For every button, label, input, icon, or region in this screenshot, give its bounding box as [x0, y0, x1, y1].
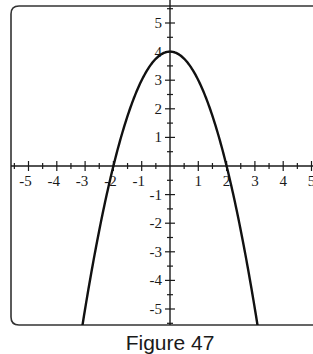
x-tick-label: 4 [279, 173, 287, 189]
y-tick-label: 5 [155, 15, 163, 31]
y-tick-label: -3 [150, 244, 163, 260]
x-tick-label: -3 [76, 173, 89, 189]
y-tick-label: -2 [150, 215, 163, 231]
y-tick-label: -5 [150, 301, 163, 317]
x-tick-label: -5 [19, 173, 32, 189]
y-tick-label: -4 [150, 272, 163, 288]
x-axis [11, 161, 313, 171]
figure-caption: Figure 47 [126, 331, 215, 354]
x-tick-label: 5 [308, 173, 313, 189]
y-tick-label: 3 [155, 72, 163, 88]
x-tick-label: -4 [48, 173, 61, 189]
x-tick-label: 1 [195, 173, 203, 189]
y-tick-label: 2 [155, 101, 163, 117]
y-tick-label: -1 [150, 187, 163, 203]
x-tick-labels: -5-4-3-2-112345 [19, 173, 313, 189]
figure-47-graph: -5-4-3-2-112345 54321-1-2-3-4-5 Figure 4… [0, 0, 313, 354]
x-tick-label: -1 [132, 173, 145, 189]
y-axis [165, 0, 175, 325]
y-tick-label: 1 [155, 129, 163, 145]
x-tick-label: 3 [251, 173, 259, 189]
